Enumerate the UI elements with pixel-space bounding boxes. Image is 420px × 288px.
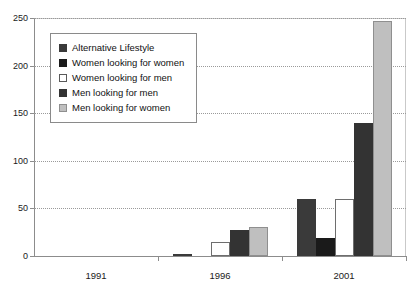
plot-right-border	[405, 18, 406, 256]
gridline	[34, 18, 406, 19]
bar	[211, 242, 230, 256]
bar	[297, 199, 316, 256]
x-tick-label-2001: 2001	[333, 270, 354, 281]
legend-swatch-icon	[59, 89, 67, 97]
legend-label: Women looking for women	[72, 58, 184, 68]
y-tick-mark	[30, 161, 34, 162]
legend-swatch-icon	[59, 74, 67, 82]
y-tick-mark	[30, 208, 34, 209]
y-tick-label: 0	[23, 251, 28, 261]
y-tick-label: 200	[13, 61, 28, 71]
y-tick-mark	[30, 256, 34, 257]
legend-swatch-icon	[59, 59, 67, 67]
legend-item: Women looking for men	[59, 71, 184, 85]
legend-item: Men looking for women	[59, 101, 184, 115]
y-tick-mark	[30, 18, 34, 19]
y-tick-mark	[30, 66, 34, 67]
y-tick-mark	[30, 113, 34, 114]
y-tick-label: 100	[13, 156, 28, 166]
x-tick-label-1991: 1991	[85, 270, 106, 281]
y-tick-label: 50	[18, 203, 28, 213]
x-tick-mark	[406, 256, 407, 261]
legend-label: Men looking for women	[72, 103, 170, 113]
bar	[316, 238, 335, 256]
y-tick-label: 150	[13, 108, 28, 118]
bar	[230, 230, 249, 256]
legend-label: Women looking for men	[72, 73, 172, 83]
chart-legend: Alternative LifestyleWomen looking for w…	[50, 33, 197, 123]
x-tick-label-1996: 1996	[209, 270, 230, 281]
gridline	[34, 161, 406, 162]
bar-chart: Analysis 050100150200250199119962001 Alt…	[0, 0, 420, 288]
legend-swatch-icon	[59, 44, 67, 52]
legend-item: Alternative Lifestyle	[59, 41, 184, 55]
bar	[373, 21, 392, 256]
y-tick-label: 250	[13, 13, 28, 23]
x-tick-mark	[158, 256, 159, 261]
y-axis-line	[34, 18, 35, 256]
x-axis-line	[34, 256, 406, 257]
legend-item: Men looking for men	[59, 86, 184, 100]
x-tick-mark	[282, 256, 283, 261]
legend-label: Alternative Lifestyle	[72, 43, 154, 53]
bar	[354, 123, 373, 256]
bar	[249, 227, 268, 257]
bar	[335, 199, 354, 256]
legend-swatch-icon	[59, 104, 67, 112]
bar	[173, 254, 192, 256]
legend-item: Women looking for women	[59, 56, 184, 70]
legend-label: Men looking for men	[72, 88, 158, 98]
